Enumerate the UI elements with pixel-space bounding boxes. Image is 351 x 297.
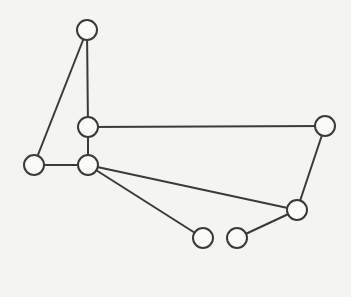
node-n_left	[24, 155, 44, 175]
edge-n_lower_mid-n_bottom_left	[88, 165, 203, 238]
node-n_bottom_left	[193, 228, 213, 248]
edge-n_lower_mid-n_lower_right	[88, 165, 297, 210]
node-n_mid_upper	[78, 117, 98, 137]
node-layer	[24, 20, 335, 248]
edge-n_top-n_mid_upper	[87, 30, 88, 127]
node-n_lower_right	[287, 200, 307, 220]
edge-layer	[34, 30, 325, 238]
node-n_top	[77, 20, 97, 40]
edge-n_top-n_left	[34, 30, 87, 165]
node-n_right	[315, 116, 335, 136]
node-n_bottom_right	[227, 228, 247, 248]
edge-n_mid_upper-n_right	[88, 126, 325, 127]
edge-n_right-n_lower_right	[297, 126, 325, 210]
graph-diagram	[0, 0, 351, 297]
node-n_lower_mid	[78, 155, 98, 175]
